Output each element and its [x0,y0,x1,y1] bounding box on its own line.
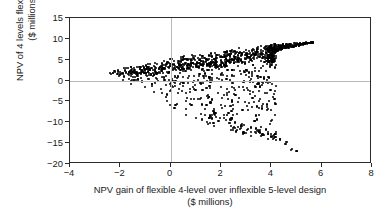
data-point [187,82,189,84]
data-point [202,65,204,67]
data-point [266,109,268,111]
data-point [204,108,206,110]
data-point [215,116,217,118]
data-point [258,107,260,109]
data-point [220,66,222,68]
data-point [244,54,246,56]
data-point [177,76,179,78]
data-point [275,133,277,135]
data-point [218,68,220,70]
data-point [214,62,216,64]
data-point [230,125,232,127]
data-point [273,93,275,95]
data-point [175,69,177,71]
data-point [266,92,268,94]
data-point [202,60,204,62]
data-point [221,107,223,109]
data-point [259,98,261,100]
data-point [173,60,175,62]
data-point [231,100,233,102]
data-point [272,96,274,98]
data-point [147,63,149,65]
data-point [272,138,274,140]
data-point [179,69,181,71]
data-point [217,120,219,122]
data-point [234,89,236,91]
data-point [247,109,249,111]
data-point [218,54,220,56]
data-point [200,113,202,115]
data-point [185,92,187,94]
data-point [155,72,157,74]
data-point [185,70,187,72]
y-axis-tick [65,59,69,60]
data-point [265,128,267,130]
data-point [261,53,263,55]
data-point [209,81,211,83]
data-point [251,106,253,108]
data-point [244,101,246,103]
data-point [228,91,230,93]
data-point [233,126,235,128]
plot-area [69,17,371,163]
data-point [112,72,114,74]
data-point [213,108,215,110]
data-point [273,98,275,100]
data-point [208,54,210,56]
data-point [261,107,263,109]
data-point [177,92,179,94]
data-point [127,67,129,69]
data-point [260,126,262,128]
data-point [234,94,236,96]
data-point [248,71,250,73]
data-point [274,136,276,138]
data-point [217,92,219,94]
data-point [180,60,182,62]
y-axis-tick [65,38,69,39]
data-point [288,47,290,49]
x-axis-tick-label: 2 [205,167,235,178]
data-point [249,90,251,92]
data-point [166,100,168,102]
data-point [250,58,252,60]
data-point [185,114,187,116]
data-point [226,88,228,90]
data-point [233,69,235,71]
data-point [201,119,203,121]
data-point [273,46,275,48]
data-point [229,118,231,120]
data-point [203,77,205,79]
data-point [265,70,267,72]
y-axis-tick-label: −10 [33,116,63,127]
data-point [254,95,256,97]
x-axis-tick-label: 8 [356,167,386,178]
data-point [255,114,257,116]
data-point [232,82,234,84]
data-point [255,51,257,53]
data-point [203,70,205,72]
data-point [275,139,277,141]
y-axis-tick [65,17,69,18]
data-point [201,103,203,105]
data-point [243,132,245,134]
data-point [260,67,262,69]
data-point [235,130,237,132]
x-axis-tick-label: 4 [255,167,285,178]
data-point [250,135,252,137]
data-point [211,55,213,57]
x-axis-tick-label: −4 [54,167,84,178]
data-point [152,69,154,71]
data-point [267,49,269,51]
data-point [174,85,176,87]
data-point [271,119,273,121]
data-point [185,100,187,102]
data-point [254,67,256,69]
data-point [144,86,146,88]
data-point [218,78,220,80]
data-point [254,70,256,72]
data-point [189,91,191,93]
data-point [223,117,225,119]
data-point [211,98,213,100]
y-axis-tick-label: −15 [33,137,63,148]
data-point [190,64,192,66]
